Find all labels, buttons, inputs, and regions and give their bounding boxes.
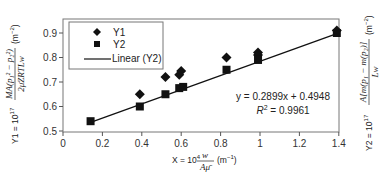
legend-label-linear: Linear (Y2) — [112, 53, 161, 64]
y1-point-diamond — [135, 89, 145, 99]
x-tick-label: 0.2 — [95, 138, 109, 149]
x-tick-label: 0.4 — [135, 138, 149, 149]
y2-point-square — [87, 117, 95, 125]
x-tick-label: 0.8 — [214, 138, 228, 149]
x-tick-label: 1.2 — [292, 138, 306, 149]
y2-point-square — [333, 29, 341, 37]
y2-axis-title: Y2 = 1017 A[m(p₁ − m(p₂)] Lw (m−2) — [358, 15, 379, 151]
x-axis: 00.20.40.60.811.21.4 — [60, 132, 346, 149]
svg-text:Y1 = 1017: Y1 = 1017 — [9, 107, 20, 144]
svg-text:MA(p₁² − p₂²): MA(p₁² − p₂²) — [4, 49, 14, 100]
y-tick-label: 0.9 — [43, 28, 57, 39]
regression-equation: y = 0.2899x + 0.4948 — [236, 91, 330, 102]
y-axis-left: 0.50.60.70.80.9 — [43, 28, 63, 137]
y-tick-label: 0.5 — [43, 126, 57, 137]
x-tick-label: 1.4 — [332, 138, 346, 149]
y2-point-square — [223, 66, 231, 74]
svg-text:(m−2): (m−2) — [9, 24, 20, 44]
y2-point-square — [179, 83, 187, 91]
y-tick-label: 0.7 — [43, 77, 57, 88]
svg-text:Lw: Lw — [370, 66, 379, 78]
x-axis-title: X = 104 w Aμ̄ (m−1) — [172, 150, 237, 172]
legend: Y1 Y2 Linear (Y2) — [69, 22, 163, 69]
y1-point-diamond — [160, 72, 170, 82]
r-squared: R2 = 0.9961 — [256, 104, 310, 116]
svg-text:A[m(p₁ − m(p₂)]: A[m(p₁ − m(p₂)] — [358, 41, 368, 103]
y2-point-square — [161, 90, 169, 98]
y1-point-diamond — [222, 53, 232, 63]
svg-text:X = 104: X = 104 — [172, 154, 201, 165]
legend-label-y2: Y2 — [113, 39, 126, 50]
y-tick-label: 0.6 — [43, 101, 57, 112]
scatter-chart: 00.20.40.60.811.21.4 0.50.60.70.80.9 Y1 … — [0, 0, 379, 181]
svg-text:Aμ̄: Aμ̄ — [199, 162, 213, 172]
square-marker-icon — [94, 41, 100, 47]
svg-text:(m−2): (m−2) — [363, 15, 374, 35]
svg-text:w: w — [202, 150, 208, 160]
y1-axis-title: Y1 = 1017 MA(p₁² − p₂²) 2μ̄ZRTLw (m−2) — [4, 24, 26, 144]
svg-text:(m−1): (m−1) — [217, 154, 237, 165]
svg-text:2μ̄ZRTLw: 2μ̄ZRTLw — [16, 56, 26, 92]
y2-point-square — [254, 56, 262, 64]
legend-label-y1: Y1 — [113, 27, 126, 38]
x-tick-label: 0.6 — [174, 138, 188, 149]
y-tick-label: 0.8 — [43, 52, 57, 63]
svg-text:Y2 = 1017: Y2 = 1017 — [363, 114, 374, 151]
x-tick-label: 0 — [60, 138, 66, 149]
x-tick-label: 1 — [257, 138, 263, 149]
y2-point-square — [136, 103, 144, 111]
